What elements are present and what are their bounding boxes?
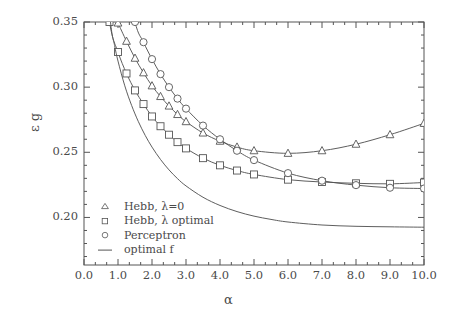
legend-item: optimal f xyxy=(96,243,214,258)
x-tick-label: 10.0 xyxy=(394,268,454,282)
legend-line-icon xyxy=(96,244,118,256)
chart-figure: 0.01.02.03.04.05.06.07.08.09.010.0 0.350… xyxy=(0,0,457,327)
y-tick-label: 0.35 xyxy=(0,14,78,28)
legend-label: Perceptron xyxy=(118,229,186,242)
data-series-group xyxy=(63,0,428,227)
y-tick-label: 0.20 xyxy=(0,209,78,223)
y-axis-label: ε g xyxy=(27,103,42,143)
legend-triangle-icon xyxy=(96,200,118,212)
legend-square-icon xyxy=(96,215,118,227)
x-axis-label: α xyxy=(0,292,457,307)
legend-item: Hebb, λ optimal xyxy=(96,214,214,229)
y-tick-label: 0.30 xyxy=(0,79,78,93)
series-circle xyxy=(89,0,428,192)
series-triangle xyxy=(114,19,428,157)
chart-legend: Hebb, λ=0Hebb, λ optimalPerceptronoptima… xyxy=(96,199,214,257)
y-tick-label: 0.25 xyxy=(0,144,78,158)
legend-circle-icon xyxy=(96,229,118,241)
legend-label: optimal f xyxy=(118,243,174,256)
legend-label: Hebb, λ=0 xyxy=(118,200,184,213)
legend-item: Perceptron xyxy=(96,228,214,243)
legend-item: Hebb, λ=0 xyxy=(96,199,214,214)
series-square xyxy=(63,0,427,187)
legend-label: Hebb, λ optimal xyxy=(118,214,214,227)
